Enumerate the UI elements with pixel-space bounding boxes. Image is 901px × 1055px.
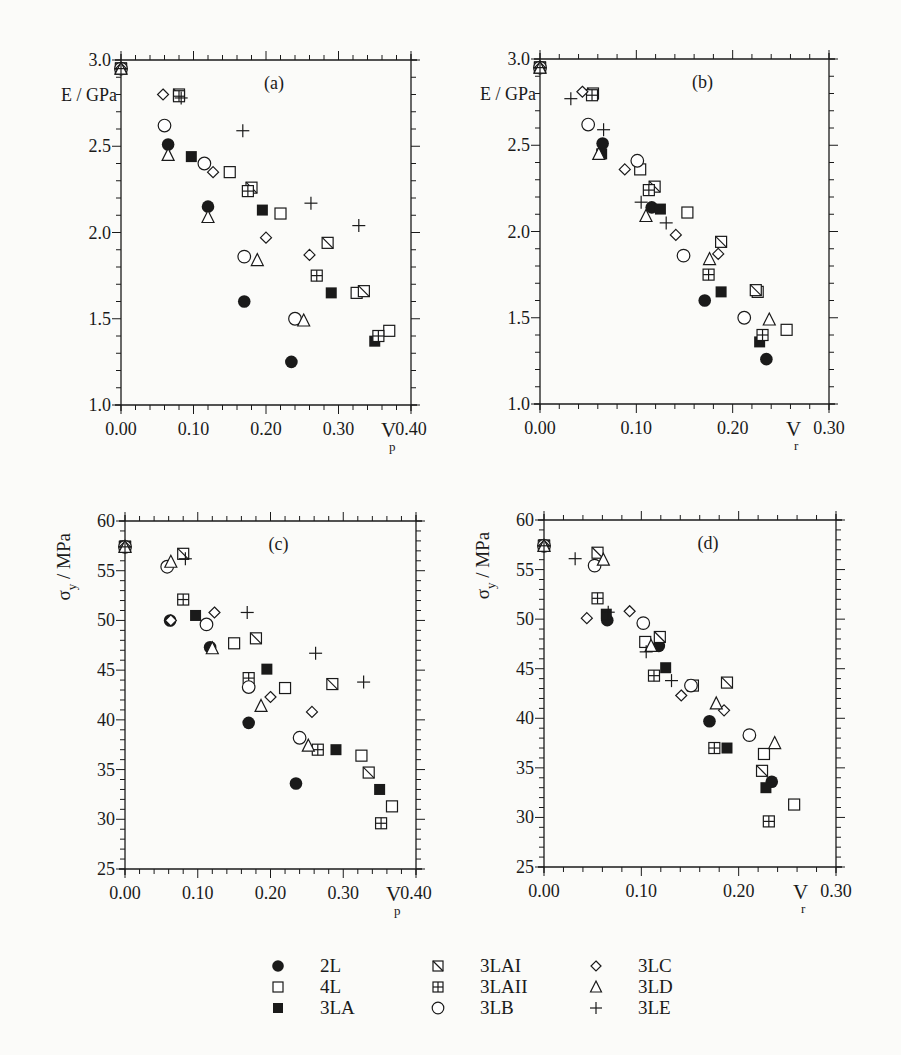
x-axis-label-subscript: p [389, 439, 396, 454]
x-tick-label: 0.00 [528, 881, 560, 901]
y-tick-label: 40 [97, 710, 115, 730]
legend-item-3LE: 3LE [588, 997, 728, 1018]
y-axis-label: E / GPa [480, 84, 536, 104]
plus-icon [588, 1000, 604, 1016]
series-3LAI [120, 541, 375, 778]
x-tick-label: 0.30 [328, 883, 360, 903]
legend-label: 3LB [480, 997, 514, 1019]
y-tick-label: 60 [516, 510, 534, 530]
x-tick-label: 0.30 [820, 881, 852, 901]
legend-column-2: 3LAI 3LAII 3LB [430, 955, 570, 1018]
legend-item-3LB: 3LB [430, 997, 570, 1018]
open-triangle-icon [588, 979, 604, 995]
legend-label: 3LC [638, 955, 672, 977]
x-axis-label-subscript: p [394, 903, 401, 918]
y-tick-label: 3.0 [89, 50, 112, 70]
y-tick-label: 30 [97, 809, 115, 829]
series-4L [116, 63, 395, 336]
y-tick-label: 45 [516, 659, 534, 679]
legend-item-2L: 2L [270, 955, 410, 976]
series-2L [534, 61, 773, 365]
cross-square-icon [430, 979, 446, 995]
series-2L [538, 539, 778, 788]
series-3LAI [535, 62, 762, 296]
y-tick-label: 35 [97, 760, 115, 780]
x-tick-label: 0.00 [105, 419, 137, 439]
y-tick-label: 25 [97, 859, 115, 879]
series-3LE [119, 540, 371, 688]
x-axis-label-subscript: r [801, 901, 806, 916]
legend-item-3LD: 3LD [588, 976, 728, 997]
series-3LB [115, 62, 302, 325]
y-tick-label: 25 [516, 857, 534, 877]
series-2L [119, 541, 303, 790]
x-tick-label: 0.10 [626, 881, 658, 901]
x-axis-label-subscript: r [794, 438, 799, 453]
series-3LD [115, 62, 310, 326]
panel-a-modulus-vs-vp: 0.000.100.200.300.401.01.52.02.53.0(a)Vp… [61, 50, 427, 454]
y-tick-label: 55 [97, 561, 115, 581]
x-tick-label: 0.20 [250, 419, 282, 439]
x-tick-label: 0.20 [255, 883, 287, 903]
y-axis-label: σy / MPa [472, 531, 498, 599]
legend-item-3LAII: 3LAII [430, 976, 570, 997]
x-tick-label: 0.10 [621, 418, 653, 438]
x-tick-label: 0.20 [717, 418, 749, 438]
y-tick-label: 1.5 [508, 308, 531, 328]
series-3LAI [539, 540, 768, 776]
panel-label: (a) [264, 73, 284, 94]
x-tick-label: 0.00 [109, 883, 141, 903]
y-tick-label: 55 [516, 560, 534, 580]
legend-item-3LAI: 3LAI [430, 955, 570, 976]
panel-label: (d) [698, 533, 719, 554]
series-3LC [539, 540, 730, 716]
x-tick-label: 0.00 [524, 418, 556, 438]
x-tick-label: 0.10 [182, 883, 214, 903]
series-3LAII [539, 540, 775, 827]
open-diamond-icon [588, 958, 604, 974]
legend-column-3: 3LC 3LD 3LE [588, 955, 728, 1018]
x-tick-label: 0.40 [395, 419, 427, 439]
y-axis-label: σy / MPa [53, 533, 79, 601]
series-3LA [120, 541, 386, 795]
legend: 2L 4L 3LA 3LAI 3LAII 3LB 3LC 3LD 3LE [270, 955, 690, 1025]
panel-b-modulus-vs-vr: 0.000.100.200.301.01.52.02.53.0(b)VrE / … [480, 49, 845, 453]
x-tick-label: 0.20 [723, 881, 755, 901]
legend-item-3LC: 3LC [588, 955, 728, 976]
filled-square-icon [270, 1000, 286, 1016]
y-tick-label: 50 [97, 610, 115, 630]
y-tick-label: 35 [516, 758, 534, 778]
figure: 0.000.100.200.300.401.01.52.02.53.0(a)Vp… [0, 0, 901, 1055]
legend-label: 3LE [638, 997, 671, 1019]
legend-label: 3LAI [480, 955, 521, 977]
legend-label: 4L [320, 976, 341, 998]
legend-item-3LA: 3LA [270, 997, 410, 1018]
y-tick-label: 60 [97, 511, 115, 531]
x-tick-label: 0.30 [813, 418, 845, 438]
y-tick-label: 2.5 [89, 136, 112, 156]
panel-label: (c) [269, 534, 289, 555]
y-tick-label: 3.0 [508, 49, 531, 69]
y-tick-label: 45 [97, 660, 115, 680]
filled-circle-icon [270, 958, 286, 974]
panel-label: (b) [692, 72, 713, 93]
legend-label: 3LA [320, 997, 355, 1019]
series-4L [120, 541, 398, 812]
y-tick-label: 1.5 [89, 309, 112, 329]
panel-c-yield-stress-vs-vp: 0.000.100.200.300.402530354045505560(c)V… [53, 511, 432, 918]
legend-label: 3LD [638, 976, 673, 998]
x-tick-label: 0.30 [323, 419, 355, 439]
y-tick-label: 50 [516, 609, 534, 629]
series-3LD [119, 540, 314, 751]
legend-item-4L: 4L [270, 976, 410, 997]
x-tick-label: 0.40 [400, 883, 432, 903]
open-square-icon [270, 979, 286, 995]
y-tick-label: 2.5 [508, 135, 531, 155]
legend-label: 3LAII [480, 976, 527, 998]
y-tick-label: 30 [516, 807, 534, 827]
series-3LE [115, 62, 366, 232]
y-axis-label: E / GPa [61, 85, 117, 105]
series-3LB [534, 61, 751, 324]
x-tick-label: 0.10 [178, 419, 210, 439]
y-tick-label: 2.0 [89, 223, 112, 243]
